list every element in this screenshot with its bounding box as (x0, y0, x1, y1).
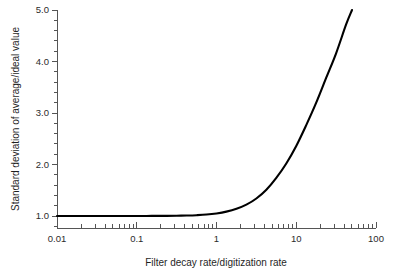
y-tick-label: 2.0 (36, 159, 49, 170)
x-tick-label: 1 (214, 233, 219, 244)
chart-figure: 1.02.03.04.05.0 0.010.1110100 Filter dec… (0, 0, 396, 273)
x-axis-title: Filter decay rate/digitization rate (145, 257, 287, 268)
y-tick-label: 3.0 (36, 107, 49, 118)
y-tick-label: 4.0 (36, 56, 49, 67)
x-tick-label: 100 (368, 233, 384, 244)
line-chart-plot: 1.02.03.04.05.0 0.010.1110100 Filter dec… (0, 0, 396, 273)
x-tick-label: 0.01 (48, 233, 67, 244)
y-axis-title: Standard deviation of average/ideal valu… (10, 27, 21, 211)
x-tick-label: 10 (291, 233, 302, 244)
y-axis-minor-ticks (54, 20, 57, 226)
x-tick-label: 0.1 (130, 233, 143, 244)
y-tick-label: 1.0 (36, 210, 49, 221)
y-tick-label: 5.0 (36, 4, 49, 15)
